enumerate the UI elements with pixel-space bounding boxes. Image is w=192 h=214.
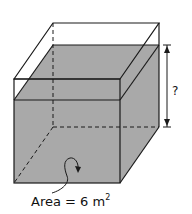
- base-area-exponent: 2: [105, 193, 110, 202]
- water-volume: [14, 45, 159, 183]
- height-arrow: [163, 45, 171, 127]
- tank-diagram: ? Area = 6 m2: [0, 0, 192, 214]
- height-unknown-label: ?: [172, 84, 178, 98]
- base-area-label: Area = 6 m2: [31, 193, 110, 209]
- base-area-text: Area = 6 m: [31, 194, 105, 209]
